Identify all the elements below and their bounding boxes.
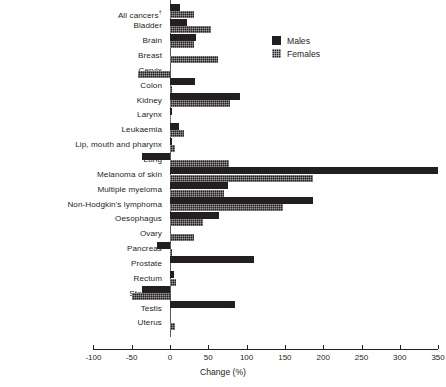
x-axis-tick-label: 300 [380, 353, 420, 362]
bar-females [170, 249, 172, 256]
bar-females [138, 71, 170, 78]
x-axis-tick [247, 345, 248, 349]
x-axis-tick-label: 350 [418, 353, 446, 362]
bar-males [170, 108, 172, 115]
bar-females [170, 279, 176, 286]
bar-females [170, 26, 211, 33]
bar-females [170, 204, 283, 211]
chart-legend: Males Females [272, 34, 320, 60]
x-axis-tick [93, 345, 94, 349]
x-axis-tick-label: 150 [265, 353, 305, 362]
bar-females [170, 190, 224, 197]
bar-females [170, 41, 194, 48]
x-axis-tick [400, 345, 401, 349]
bar-females [170, 115, 171, 122]
bar-males [170, 212, 219, 219]
x-axis-tick-label: 100 [227, 353, 267, 362]
bar-females [170, 145, 175, 152]
x-axis-tick-label: -100 [73, 353, 113, 362]
bar-males [170, 123, 179, 130]
legend-item-females: Females [272, 47, 320, 60]
bar-females [170, 130, 184, 137]
legend-item-males: Males [272, 34, 320, 47]
bar-females [132, 293, 170, 300]
x-axis-tick [438, 345, 439, 349]
legend-label-females: Females [287, 49, 320, 59]
bar-females [170, 160, 229, 167]
x-axis-tick [323, 345, 324, 349]
bar-females [170, 86, 172, 93]
bar-females [170, 219, 203, 226]
bar-males [170, 271, 174, 278]
x-axis-tick-label: 200 [303, 353, 343, 362]
x-axis-tick-label: -50 [112, 353, 152, 362]
x-axis-tick-label: 0 [150, 353, 190, 362]
bar-males [170, 93, 240, 100]
cancer-change-bar-chart: All cancers†BladderBrainBreastCervixColo… [0, 0, 446, 387]
bar-females [170, 175, 313, 182]
legend-label-males: Males [287, 36, 310, 46]
x-axis-tick [208, 345, 209, 349]
bar-females [170, 234, 194, 241]
bar-females [170, 11, 194, 18]
bar-males [170, 301, 235, 308]
x-axis-tick-label: 250 [342, 353, 382, 362]
bar-males [170, 78, 195, 85]
x-axis-tick-label: 50 [188, 353, 228, 362]
bar-males [142, 153, 170, 160]
bar-males [170, 197, 313, 204]
x-axis-tick [285, 345, 286, 349]
legend-swatch-females-icon [272, 49, 281, 58]
legend-swatch-males-icon [272, 36, 281, 45]
bar-females [170, 100, 230, 107]
bar-males [170, 167, 438, 174]
plot-area [0, 0, 446, 348]
x-axis-title: Change (%) [0, 367, 446, 377]
x-axis-tick [362, 345, 363, 349]
bar-females [170, 323, 175, 330]
bar-males [170, 34, 196, 41]
bar-males [170, 256, 254, 263]
bar-females [170, 56, 218, 63]
x-axis-line [93, 349, 438, 350]
bar-males [170, 19, 187, 26]
bar-males [170, 182, 228, 189]
bar-males [170, 4, 180, 11]
bar-males [157, 242, 170, 249]
x-axis-tick [170, 345, 171, 349]
bar-males [142, 286, 170, 293]
bar-males [170, 138, 172, 145]
x-axis-tick [132, 345, 133, 349]
